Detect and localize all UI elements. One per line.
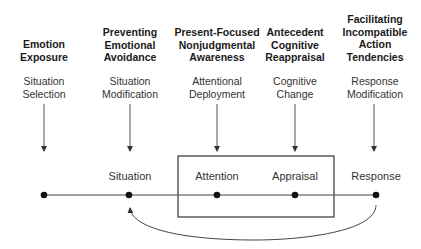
timeline-dot-response	[373, 192, 380, 199]
feedback-arrow	[130, 205, 376, 240]
timeline-dot-appraisal	[292, 192, 299, 199]
timeline-dot-attention	[214, 192, 221, 199]
timeline-dot-start	[41, 192, 48, 199]
attention-appraisal-box	[178, 156, 334, 217]
down-arrows	[44, 104, 374, 151]
timeline-dot-situation	[126, 192, 133, 199]
diagram-graphics	[0, 0, 421, 249]
